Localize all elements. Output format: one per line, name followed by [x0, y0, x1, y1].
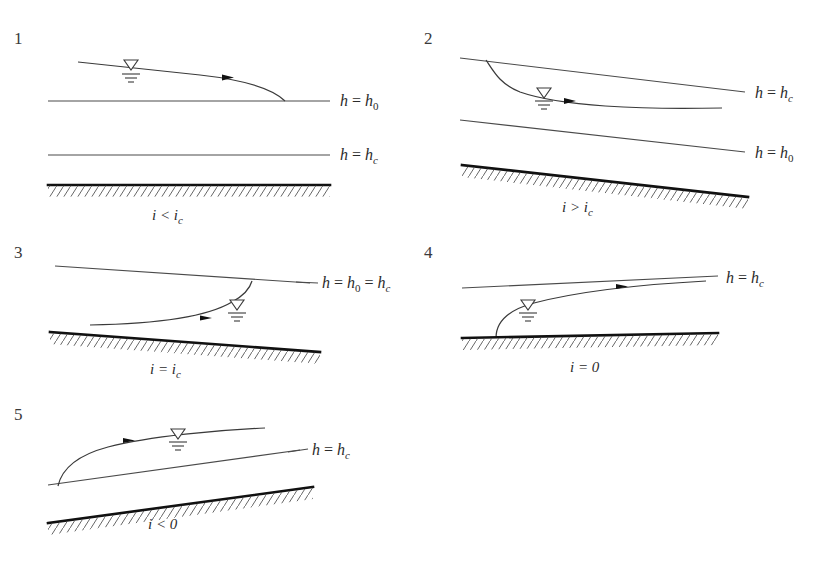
panel-1-number: 1 [14, 29, 23, 48]
figure-root: 1 h = h0 h = hc i < ic 2 [0, 0, 831, 574]
panel-2-number: 2 [424, 29, 433, 48]
panel-1-bed-hatching [48, 186, 330, 197]
panel-4-number: 4 [424, 243, 433, 262]
profile-classification-diagram: 1 h = h0 h = hc i < ic 2 [0, 0, 831, 574]
canvas-background [0, 0, 831, 574]
panel-4-slope-condition-label: i = 0 [570, 359, 600, 375]
panel-3-number: 3 [14, 243, 23, 262]
panel-5-number: 5 [14, 405, 23, 424]
panel-5-slope-condition-label: i < 0 [148, 516, 178, 532]
